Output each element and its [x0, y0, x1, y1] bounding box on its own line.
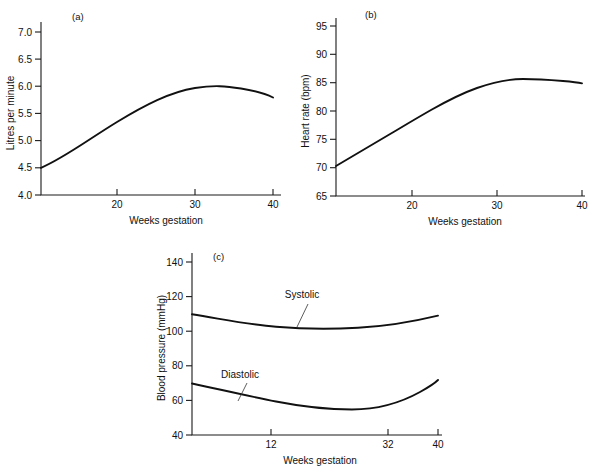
chart-c-ytick-0: 40 — [172, 430, 184, 441]
chart-a-curve-cardiac-output — [41, 86, 273, 168]
chart-c-xaxis-title: Weeks gestation — [283, 455, 357, 466]
chart-c-ytick-2: 80 — [172, 360, 184, 371]
chart-b-ytick-5: 90 — [316, 49, 328, 60]
panel-a: 4.0 4.5 5.0 5.5 6.0 6.5 7.0 20 30 40 (a)… — [0, 0, 295, 236]
panel-b: 65 70 75 80 85 90 95 20 30 40 (b) Weeks … — [295, 0, 595, 236]
chart-b-yaxis-title: Heart rate (bpm) — [300, 74, 311, 147]
chart-a-ytick-5: 6.5 — [18, 54, 32, 65]
chart-b-ytick-3: 80 — [316, 106, 328, 117]
chart-b-ytick-4: 85 — [316, 77, 328, 88]
chart-a-y-ticks — [35, 32, 41, 195]
chart-c-yaxis-title: Blood pressure (mmHg) — [156, 295, 167, 401]
chart-b-xtick-1: 30 — [491, 200, 503, 211]
chart-a-xaxis-title: Weeks gestation — [129, 215, 203, 226]
chart-a-ytick-3: 5.5 — [18, 108, 32, 119]
chart-c-label-diastolic: Diastolic — [221, 369, 259, 380]
chart-b-ytick-1: 70 — [316, 162, 328, 173]
chart-a-ytick-1: 4.5 — [18, 162, 32, 173]
chart-a-yaxis-title: Litres per minute — [5, 75, 16, 150]
chart-b-curve-heart-rate — [336, 79, 582, 166]
chart-c-y-ticks — [186, 262, 192, 435]
panel-c: 40 60 80 100 120 140 12 32 40 Systolic D… — [130, 235, 480, 472]
chart-c-ytick-3: 100 — [166, 326, 183, 337]
chart-c-x-ticks — [271, 429, 438, 435]
chart-b-ytick-6: 95 — [316, 21, 328, 32]
chart-c-ytick-4: 120 — [166, 291, 183, 302]
chart-b-panel-tag: (b) — [365, 9, 377, 20]
chart-c-ytick-5: 140 — [166, 257, 183, 268]
chart-a-x-ticks — [117, 189, 273, 195]
chart-b-xtick-2: 40 — [576, 200, 588, 211]
chart-a-ytick-6: 7.0 — [18, 27, 32, 38]
chart-c-xtick-1: 32 — [382, 439, 394, 450]
chart-b-xaxis-title: Weeks gestation — [428, 216, 502, 227]
chart-c-curve-diastolic — [192, 380, 438, 410]
chart-b-y-ticks — [330, 26, 336, 196]
chart-b-svg: 65 70 75 80 85 90 95 20 30 40 (b) Weeks … — [295, 0, 595, 236]
chart-a-xtick-0: 20 — [111, 199, 123, 210]
chart-c-diastolic-leader — [238, 383, 247, 401]
chart-b-x-ticks — [412, 190, 582, 196]
chart-a-ytick-0: 4.0 — [18, 190, 32, 201]
chart-c-label-systolic: Systolic — [285, 289, 319, 300]
chart-a-panel-tag: (a) — [72, 11, 84, 22]
chart-c-curve-systolic — [192, 314, 438, 328]
chart-a-axes — [41, 22, 281, 195]
chart-a-ytick-4: 6.0 — [18, 81, 32, 92]
chart-b-axes — [336, 18, 585, 196]
chart-b-ytick-2: 75 — [316, 134, 328, 145]
chart-a-ytick-2: 5.0 — [18, 135, 32, 146]
chart-a-xtick-1: 30 — [189, 199, 201, 210]
chart-c-ytick-1: 60 — [172, 395, 184, 406]
chart-c-svg: 40 60 80 100 120 140 12 32 40 Systolic D… — [130, 235, 480, 472]
chart-a-xtick-2: 40 — [267, 199, 279, 210]
chart-b-xtick-0: 20 — [406, 200, 418, 211]
chart-c-xtick-2: 40 — [432, 439, 444, 450]
chart-c-systolic-leader — [297, 304, 308, 327]
chart-c-xtick-0: 12 — [265, 439, 277, 450]
chart-a-svg: 4.0 4.5 5.0 5.5 6.0 6.5 7.0 20 30 40 (a)… — [0, 0, 295, 236]
chart-c-panel-tag: (c) — [213, 251, 224, 262]
chart-b-ytick-0: 65 — [316, 191, 328, 202]
